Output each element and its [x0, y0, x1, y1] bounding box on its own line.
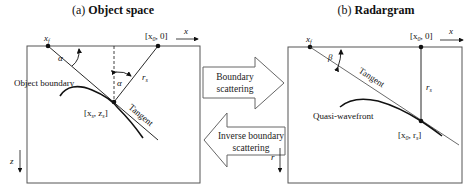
- panel-a-title: (a) Object space: [72, 3, 155, 17]
- inverse-arrow-line1: Inverse boundary: [218, 131, 284, 141]
- alpha-label-mid: α: [117, 78, 122, 88]
- panel-object-space: (a) Object space x z xf [x0, 0] α α rs: [9, 3, 200, 183]
- object-boundary-label: Object boundary: [14, 78, 75, 88]
- z-axis-label: z: [9, 156, 14, 166]
- r-axis-label: r: [271, 152, 275, 162]
- rs-label: rs: [142, 72, 149, 83]
- forward-arrow-line2: scattering: [217, 84, 254, 94]
- xf-label: xf: [305, 34, 313, 45]
- scatter-point-label: [xs, zs]: [84, 108, 108, 119]
- panel-b-title: (b) Radargram: [338, 3, 415, 17]
- quasi-wavefront-label: Quasi-wavefront: [313, 111, 374, 121]
- panel-radargram: (b) Radargram x r xf [x0, 0] rs Tangent …: [271, 3, 463, 183]
- forward-arrow-line1: Boundary: [216, 72, 254, 82]
- beta-arc: [338, 50, 341, 67]
- inverse-arrow-line2: scattering: [233, 143, 270, 153]
- tangent-line: [48, 46, 158, 140]
- apex-point-label: [x0, rs]: [398, 130, 421, 141]
- rs-label: rs: [426, 82, 433, 93]
- beta-label: β: [327, 52, 333, 62]
- alpha-arc-mid: [116, 72, 131, 76]
- x-axis-label: x: [183, 26, 188, 36]
- ray-rs: [114, 46, 158, 102]
- tangent-label: Tangent: [127, 102, 156, 129]
- x0-label: [x0, 0]: [410, 31, 433, 42]
- apex-point: [419, 119, 424, 124]
- xf-label: xf: [43, 33, 51, 44]
- alpha-arc-top: [72, 49, 79, 66]
- alpha-label-top: α: [58, 53, 63, 63]
- tangent-label: Tangent: [357, 65, 387, 89]
- boundary-scattering-diagram: (a) Object space x z xf [x0, 0] α α rs: [0, 0, 475, 194]
- boundary-scattering-arrow: Boundary scattering: [203, 57, 284, 109]
- x0-label: [x0, 0]: [145, 31, 168, 42]
- scatter-point: [112, 100, 117, 105]
- object-space-frame: [27, 46, 200, 183]
- x-axis-label: x: [448, 26, 453, 36]
